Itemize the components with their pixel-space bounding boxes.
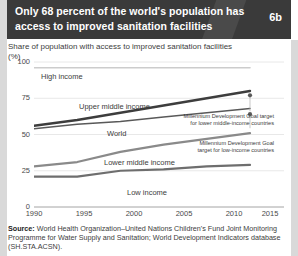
annotation-line2: target for low-income countries xyxy=(198,147,274,153)
figure-header: Only 68 percent of the world's populatio… xyxy=(7,0,291,39)
x-tick-2005: 2005 xyxy=(164,209,204,218)
annotation-line2: for lower middle-income countries xyxy=(190,120,274,126)
left-gutter xyxy=(0,0,7,256)
y-tick-75: 75 xyxy=(8,93,30,102)
series-label-lower-middle-income: Lower middle income xyxy=(104,158,175,167)
chart-subtitle: Share of population with access to impro… xyxy=(8,42,283,52)
annotation-marker-mdg-lower-middle-income xyxy=(248,93,252,97)
source-note: Source: World Health Organization–United… xyxy=(8,224,286,251)
source-label: Source: xyxy=(8,224,35,233)
annotation-line1: Millennium Development Goal xyxy=(199,140,274,146)
series-label-high-income: High income xyxy=(41,72,83,81)
annotation-mdg-lower-middle-income: Millennium Development Goal target for l… xyxy=(152,113,274,126)
series-label-low-income: Low income xyxy=(127,188,167,197)
figure-title: Only 68 percent of the world's populatio… xyxy=(15,4,247,34)
x-tick-1990: 1990 xyxy=(14,209,54,218)
right-gutter xyxy=(291,40,298,256)
source-text: World Health Organization–United Nations… xyxy=(8,224,280,251)
series-label-upper-middle-income: Upper middle income xyxy=(79,102,150,111)
line-chart-svg xyxy=(34,60,284,208)
y-tick-25: 25 xyxy=(8,166,30,175)
figure-panel: Only 68 percent of the world's populatio… xyxy=(0,0,298,256)
series-label-world: World xyxy=(107,129,126,138)
annotation-mdg-low-income: Millennium Development Goal target for l… xyxy=(168,140,274,153)
x-tick-2015: 2015 xyxy=(250,209,290,218)
annotation-line1: Millennium Development Goal target xyxy=(184,113,274,119)
x-tick-1995: 1995 xyxy=(64,209,104,218)
x-tick-2000: 2000 xyxy=(114,209,154,218)
y-tick-50: 50 xyxy=(8,130,30,139)
x-tick-2010: 2010 xyxy=(214,209,254,218)
figure-number-badge: 6b xyxy=(269,11,282,23)
y-tick-100: 100 xyxy=(8,57,30,66)
chart-plot-area xyxy=(34,60,284,208)
